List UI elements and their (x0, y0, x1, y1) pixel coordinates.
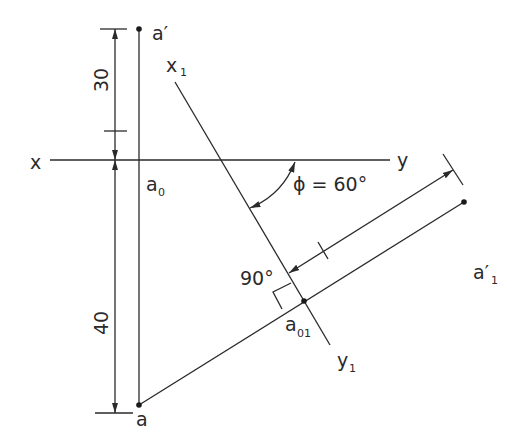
dim-value-30: 30 (90, 68, 112, 92)
label-a1-prime: a′ (473, 261, 489, 283)
label-a: a (136, 408, 148, 430)
label-right-angle: 90° (240, 267, 274, 289)
projection-diagram: a′ x y x 1 a 0 ϕ = 60° 90° a 01 y 1 a′ 1… (0, 0, 517, 443)
label-x1-sub: 1 (180, 66, 187, 79)
label-a0: a (146, 173, 158, 195)
label-a1-prime-sub: 1 (491, 274, 498, 287)
x1y1-ground-line (175, 82, 330, 345)
label-y1-sub: 1 (349, 362, 356, 375)
right-angle-mark (273, 283, 291, 309)
label-y1: y (337, 349, 348, 371)
dim-value-40: 40 (90, 311, 112, 335)
point-a (136, 402, 142, 408)
label-phi: ϕ = 60° (293, 173, 367, 195)
point-a01 (301, 298, 307, 304)
label-a01: a (285, 313, 297, 335)
point-a-prime (136, 26, 142, 32)
aux-dim-tick-end (443, 154, 463, 185)
aux-projector-line (139, 202, 464, 405)
aux-dim-tick-mid (318, 242, 328, 259)
label-a-prime: a′ (152, 22, 168, 44)
phi-angle-arc (250, 162, 295, 208)
label-a0-sub: 0 (158, 186, 165, 199)
label-y: y (397, 149, 408, 171)
label-a01-sub: 01 (297, 327, 311, 340)
label-x1: x (166, 54, 177, 76)
label-x: x (30, 151, 41, 173)
point-a1-prime (461, 199, 467, 205)
